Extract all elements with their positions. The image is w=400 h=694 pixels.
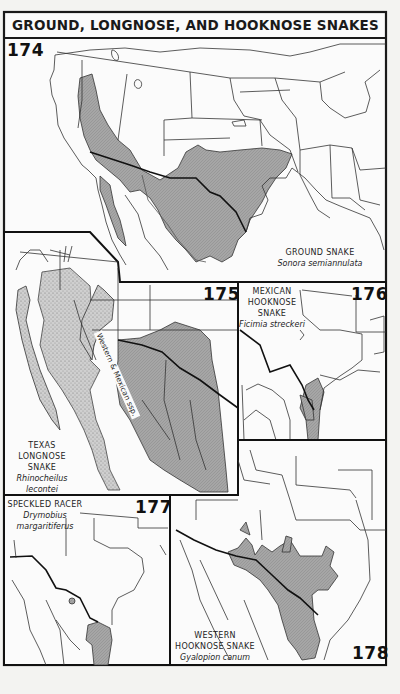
scientific-name-line: lecontei xyxy=(12,484,72,495)
map-174-legend: GROUND SNAKE Sonora semiannulata xyxy=(270,247,370,269)
scientific-name: Gyalopion canum xyxy=(173,652,257,663)
map-number-176: 176 xyxy=(351,284,388,304)
scientific-name-line: Drymobius xyxy=(6,510,84,521)
scientific-name-line: margaritiferus xyxy=(6,521,84,532)
map-number-177: 177 xyxy=(135,497,172,517)
common-name-line: WESTERN xyxy=(173,630,257,641)
common-name: GROUND SNAKE xyxy=(270,247,370,258)
common-name-line: LONGNOSE xyxy=(12,451,72,462)
scientific-name: Ficimia streckeri xyxy=(238,319,306,330)
scientific-name: Sonora semiannulata xyxy=(270,258,370,269)
common-name-line: SNAKE xyxy=(12,462,72,473)
map-number-174: 174 xyxy=(7,40,44,60)
common-name: SPECKLED RACER xyxy=(6,499,84,510)
scientific-name-line: Rhinocheilus xyxy=(12,473,72,484)
common-name-line: SNAKE xyxy=(238,308,306,319)
common-name-line: HOOKNOSE xyxy=(238,297,306,308)
map-175-legend: TEXAS LONGNOSE SNAKE Rhinocheilus lecont… xyxy=(12,440,72,495)
range-maps-figure xyxy=(0,0,400,694)
common-name-line: HOOKNOSE SNAKE xyxy=(173,641,257,652)
map-177-legend: SPECKLED RACER Drymobius margaritiferus xyxy=(6,499,84,532)
map-178-legend: WESTERN HOOKNOSE SNAKE Gyalopion canum xyxy=(173,630,257,663)
common-name-line: TEXAS xyxy=(12,440,72,451)
map-number-178: 178 xyxy=(352,643,389,663)
map-176-legend: MEXICAN HOOKNOSE SNAKE Ficimia streckeri xyxy=(238,286,306,330)
field-guide-page: GROUND, LONGNOSE, AND HOOKNOSE SNAKES 17… xyxy=(0,0,400,694)
page-title: GROUND, LONGNOSE, AND HOOKNOSE SNAKES xyxy=(5,13,386,37)
map-number-175: 175 xyxy=(203,284,240,304)
common-name-line: MEXICAN xyxy=(238,286,306,297)
